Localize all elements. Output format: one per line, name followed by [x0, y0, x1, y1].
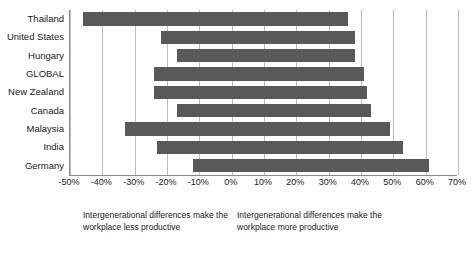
bar-india [157, 141, 403, 154]
bar-row [70, 120, 457, 138]
x-axis-tick-labels: -50%-40%-30%-20%-10%0%10%20%30%40%50%60%… [69, 177, 457, 191]
x-tick-label: -40% [91, 177, 112, 187]
bar-united-states [161, 31, 355, 44]
x-tick-label: 70% [448, 177, 466, 187]
category-label: Malaysia [0, 120, 69, 138]
bar-row [70, 83, 457, 101]
x-tick-label: 40% [351, 177, 369, 187]
bar-canada [177, 104, 371, 117]
bar-row [70, 47, 457, 65]
bar-global [154, 67, 364, 80]
x-tick-label: 10% [254, 177, 272, 187]
category-label: United States [0, 28, 69, 46]
bar-row [70, 157, 457, 175]
x-tick-label: 50% [383, 177, 401, 187]
bar-row [70, 138, 457, 156]
category-label: Hungary [0, 47, 69, 65]
plot-area [69, 10, 457, 175]
category-label: Germany [0, 157, 69, 175]
category-label: India [0, 138, 69, 156]
plot-wrapper: ThailandUnited StatesHungaryGLOBALNew Ze… [0, 0, 471, 196]
x-tick-label: -50% [58, 177, 79, 187]
x-axis-line [69, 175, 457, 176]
category-label: Thailand [0, 10, 69, 28]
bar-germany [193, 159, 429, 172]
category-label: GLOBAL [0, 65, 69, 83]
bar-new-zealand [154, 86, 367, 99]
x-tick-label: 60% [416, 177, 434, 187]
bar-malaysia [125, 122, 390, 135]
x-tick-label: 20% [286, 177, 304, 187]
x-tick-label: -30% [123, 177, 144, 187]
x-tick-label: 0% [224, 177, 237, 187]
bar-row [70, 102, 457, 120]
bar-row [70, 10, 457, 28]
x-tick-label: 30% [319, 177, 337, 187]
footnotes: Intergenerational differences make the w… [0, 210, 471, 258]
note-less-productive: Intergenerational differences make the w… [83, 210, 233, 233]
bar-row [70, 28, 457, 46]
bar-thailand [83, 12, 348, 25]
category-label: Canada [0, 102, 69, 120]
category-axis: ThailandUnited StatesHungaryGLOBALNew Ze… [0, 10, 69, 175]
bar-series [70, 10, 457, 175]
category-label: New Zealand [0, 83, 69, 101]
gridline [458, 10, 459, 175]
chart-container: ThailandUnited StatesHungaryGLOBALNew Ze… [0, 0, 471, 258]
x-tick-label: -20% [155, 177, 176, 187]
bar-hungary [177, 49, 355, 62]
x-tick-label: -10% [188, 177, 209, 187]
bar-row [70, 65, 457, 83]
note-more-productive: Intergenerational differences make the w… [237, 210, 387, 233]
